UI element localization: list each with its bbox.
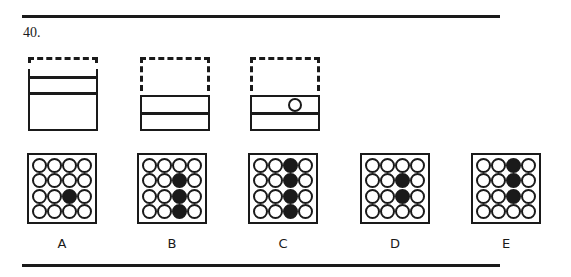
empty-circle-icon [380, 173, 395, 188]
empty-circle-icon [142, 158, 157, 173]
band-line [140, 112, 210, 115]
ball-icon [288, 98, 302, 112]
empty-circle-icon [380, 158, 395, 173]
option-label-e[interactable]: E [471, 236, 541, 251]
empty-circle-icon [365, 189, 380, 204]
empty-circle-icon [157, 189, 172, 204]
empty-circle-icon [410, 189, 425, 204]
empty-circle-icon [506, 204, 521, 219]
empty-circle-icon [476, 189, 491, 204]
empty-circle-icon [187, 189, 202, 204]
dashed-right-edge [317, 57, 320, 91]
empty-circle-icon [32, 189, 47, 204]
empty-circle-icon [142, 173, 157, 188]
filled-circle-icon [172, 189, 187, 204]
option-grid-b[interactable] [137, 153, 207, 224]
dashed-right-edge [207, 57, 210, 91]
empty-circle-icon [298, 173, 313, 188]
empty-circle-icon [298, 204, 313, 219]
empty-circle-icon [187, 204, 202, 219]
empty-circle-icon [268, 158, 283, 173]
empty-circle-icon [142, 204, 157, 219]
empty-circle-icon [62, 204, 77, 219]
empty-circle-icon [298, 189, 313, 204]
stem-figure-3 [250, 57, 320, 131]
dashed-top-edge [140, 57, 210, 60]
band-line [250, 112, 320, 115]
empty-circle-icon [491, 204, 506, 219]
dashed-right-edge [95, 57, 98, 63]
empty-circle-icon [476, 158, 491, 173]
bottom-rule [22, 264, 500, 267]
filled-circle-icon [506, 158, 521, 173]
empty-circle-icon [253, 204, 268, 219]
top-rule [22, 15, 500, 18]
filled-circle-icon [62, 189, 77, 204]
empty-circle-icon [157, 158, 172, 173]
band-line-2 [28, 92, 98, 95]
empty-circle-icon [365, 204, 380, 219]
empty-circle-icon [157, 173, 172, 188]
dashed-left-edge [140, 57, 143, 91]
empty-circle-icon [77, 204, 92, 219]
option-label-a[interactable]: A [27, 236, 97, 251]
option-label-c[interactable]: C [248, 236, 318, 251]
empty-circle-icon [253, 158, 268, 173]
empty-circle-icon [47, 204, 62, 219]
question-number: 40. [23, 25, 41, 41]
empty-circle-icon [476, 173, 491, 188]
empty-circle-icon [365, 158, 380, 173]
filled-circle-icon [283, 173, 298, 188]
option-grid-d[interactable] [360, 153, 430, 224]
empty-circle-icon [395, 158, 410, 173]
empty-circle-icon [157, 204, 172, 219]
empty-circle-icon [62, 173, 77, 188]
option-grid-c[interactable] [248, 153, 318, 224]
empty-circle-icon [268, 189, 283, 204]
band-line-1 [28, 76, 98, 79]
empty-circle-icon [380, 204, 395, 219]
filled-circle-icon [283, 189, 298, 204]
empty-circle-icon [172, 158, 187, 173]
dashed-left-edge [28, 57, 31, 63]
empty-circle-icon [268, 173, 283, 188]
empty-circle-icon [410, 204, 425, 219]
empty-circle-icon [521, 173, 536, 188]
empty-circle-icon [491, 158, 506, 173]
option-label-d[interactable]: D [360, 236, 430, 251]
empty-circle-icon [253, 189, 268, 204]
empty-circle-icon [268, 204, 283, 219]
empty-circle-icon [32, 158, 47, 173]
empty-circle-icon [47, 173, 62, 188]
empty-circle-icon [77, 189, 92, 204]
empty-circle-icon [77, 158, 92, 173]
empty-circle-icon [365, 173, 380, 188]
empty-circle-icon [47, 158, 62, 173]
empty-circle-icon [491, 189, 506, 204]
empty-circle-icon [187, 158, 202, 173]
empty-circle-icon [410, 158, 425, 173]
empty-circle-icon [187, 173, 202, 188]
empty-circle-icon [395, 204, 410, 219]
filled-circle-icon [283, 204, 298, 219]
option-grid-a[interactable] [27, 153, 97, 224]
stem-figure-1 [28, 57, 98, 131]
empty-circle-icon [476, 204, 491, 219]
option-grid-e[interactable] [471, 153, 541, 224]
dashed-top-edge [250, 57, 320, 60]
empty-circle-icon [32, 173, 47, 188]
stem-figure-2 [140, 57, 210, 131]
filled-circle-icon [506, 189, 521, 204]
empty-circle-icon [521, 204, 536, 219]
dashed-left-edge [250, 57, 253, 91]
filled-circle-icon [506, 173, 521, 188]
option-label-b[interactable]: B [137, 236, 207, 251]
filled-circle-icon [172, 173, 187, 188]
empty-circle-icon [521, 189, 536, 204]
empty-circle-icon [253, 173, 268, 188]
empty-circle-icon [491, 173, 506, 188]
empty-circle-icon [142, 189, 157, 204]
empty-circle-icon [380, 189, 395, 204]
empty-circle-icon [521, 158, 536, 173]
empty-circle-icon [410, 173, 425, 188]
